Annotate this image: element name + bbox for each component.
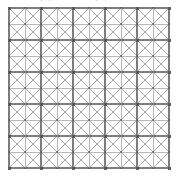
node-marker <box>104 7 107 10</box>
node-marker <box>120 23 122 25</box>
node-marker <box>24 119 26 121</box>
node-marker <box>152 103 154 105</box>
node-marker <box>56 135 58 137</box>
node-marker <box>152 7 154 9</box>
node-marker <box>152 71 154 73</box>
node-marker <box>24 87 26 89</box>
node-marker <box>120 167 122 169</box>
node-marker <box>24 103 26 105</box>
node-marker <box>168 7 171 10</box>
node-marker <box>40 119 42 121</box>
node-marker <box>24 39 26 41</box>
node-marker <box>152 55 154 57</box>
node-marker <box>24 55 26 57</box>
node-marker <box>152 39 154 41</box>
node-marker <box>88 135 90 137</box>
node-marker <box>168 55 170 57</box>
node-marker <box>168 39 171 42</box>
node-marker <box>104 87 106 89</box>
node-marker <box>8 39 11 42</box>
node-marker <box>104 135 107 138</box>
node-marker <box>104 71 107 74</box>
node-marker <box>120 71 122 73</box>
node-marker <box>120 87 122 89</box>
node-marker <box>136 55 138 57</box>
node-marker <box>120 39 122 41</box>
node-marker <box>104 103 107 106</box>
node-marker <box>88 39 90 41</box>
node-marker <box>88 167 90 169</box>
node-marker <box>88 71 90 73</box>
node-marker <box>72 167 75 170</box>
node-marker <box>136 7 139 10</box>
node-marker <box>8 71 11 74</box>
node-marker <box>72 39 75 42</box>
node-marker <box>40 23 42 25</box>
node-marker <box>72 87 74 89</box>
node-marker <box>40 7 43 10</box>
node-marker <box>168 135 171 138</box>
node-marker <box>56 103 58 105</box>
node-marker <box>56 71 58 73</box>
node-marker <box>56 151 58 153</box>
node-marker <box>152 151 154 153</box>
node-marker <box>168 167 171 170</box>
node-marker <box>168 71 171 74</box>
node-marker <box>120 103 122 105</box>
node-marker <box>168 119 170 121</box>
node-marker <box>136 39 139 42</box>
node-marker <box>104 39 107 42</box>
node-marker <box>72 119 74 121</box>
node-marker <box>136 167 139 170</box>
node-marker <box>168 151 170 153</box>
node-marker <box>104 167 107 170</box>
node-marker <box>8 55 10 57</box>
node-marker <box>24 7 26 9</box>
node-marker <box>152 119 154 121</box>
node-marker <box>72 7 75 10</box>
node-marker <box>120 135 122 137</box>
node-marker <box>8 167 11 170</box>
node-marker <box>8 103 11 106</box>
node-marker <box>104 151 106 153</box>
node-marker <box>24 167 26 169</box>
node-marker <box>56 39 58 41</box>
node-marker <box>136 23 138 25</box>
node-marker <box>88 103 90 105</box>
node-marker <box>168 23 170 25</box>
node-marker <box>120 7 122 9</box>
node-marker <box>40 151 42 153</box>
lattice-diagram <box>0 0 180 177</box>
node-marker <box>120 119 122 121</box>
node-marker <box>72 135 75 138</box>
node-marker <box>8 135 11 138</box>
node-marker <box>24 23 26 25</box>
node-marker <box>24 135 26 137</box>
node-marker <box>40 103 43 106</box>
node-marker <box>40 39 43 42</box>
node-marker <box>24 151 26 153</box>
node-marker <box>8 87 10 89</box>
node-marker <box>136 135 139 138</box>
node-marker <box>152 23 154 25</box>
node-marker <box>56 55 58 57</box>
node-marker <box>8 119 10 121</box>
node-marker <box>40 71 43 74</box>
node-marker <box>88 23 90 25</box>
node-marker <box>8 7 11 10</box>
node-marker <box>88 119 90 121</box>
node-marker <box>120 55 122 57</box>
node-marker <box>56 119 58 121</box>
node-marker <box>88 151 90 153</box>
node-marker <box>136 119 138 121</box>
node-marker <box>72 23 74 25</box>
node-marker <box>56 23 58 25</box>
node-marker <box>104 119 106 121</box>
node-marker <box>88 55 90 57</box>
node-marker <box>136 151 138 153</box>
node-marker <box>136 103 139 106</box>
node-marker <box>152 87 154 89</box>
node-marker <box>72 71 75 74</box>
node-marker <box>152 167 154 169</box>
node-marker <box>56 167 58 169</box>
